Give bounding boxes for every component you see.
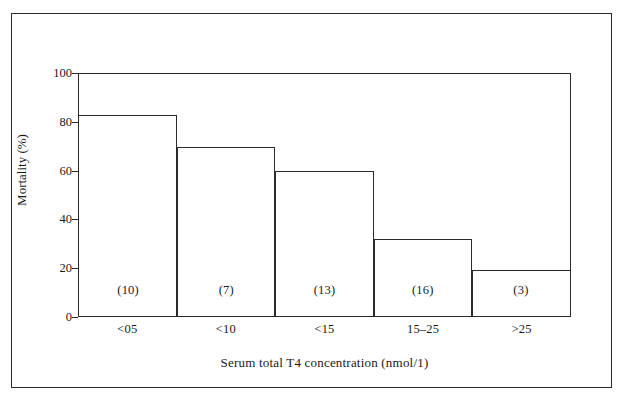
bar-count-label: (3) [472, 283, 570, 298]
y-tick-label: 40 [42, 212, 72, 227]
x-tick-label: <10 [177, 322, 276, 337]
x-axis-tick-labels: <05 <10 <15 15–25 >25 [78, 322, 571, 337]
x-tick-label: >25 [472, 322, 571, 337]
y-tick-label: 100 [42, 66, 72, 81]
bar-count-label: (7) [177, 283, 275, 298]
y-tick-label: 0 [42, 310, 72, 325]
plot-area: (10) (7) (13) (16) (3) [78, 73, 571, 317]
bar-cell: (13) [275, 74, 373, 316]
y-tick-label: 20 [42, 261, 72, 276]
x-tick-label: <05 [78, 322, 177, 337]
y-tick-mark [72, 317, 78, 318]
y-axis-title: Mortality (%) [14, 110, 30, 230]
bar-cell: (7) [177, 74, 275, 316]
bar-cell: (3) [472, 74, 570, 316]
bar-count-label: (10) [79, 283, 177, 298]
chart-figure: 100 80 60 40 20 0 Mortality (%) (10) (7)… [0, 0, 626, 400]
bar[interactable] [374, 239, 472, 316]
x-tick-label: 15–25 [374, 322, 473, 337]
x-tick-label: <15 [275, 322, 374, 337]
y-axis-tick-labels: 100 80 60 40 20 0 [38, 73, 72, 317]
bar-count-label: (16) [374, 283, 472, 298]
bar-cell: (10) [79, 74, 177, 316]
bar-cell: (16) [374, 74, 472, 316]
x-axis-title: Serum total T4 concentration (nmol/1) [78, 355, 571, 371]
y-tick-label: 60 [42, 163, 72, 178]
bar-series: (10) (7) (13) (16) (3) [79, 74, 570, 316]
bar-count-label: (13) [275, 283, 373, 298]
y-tick-label: 80 [42, 114, 72, 129]
